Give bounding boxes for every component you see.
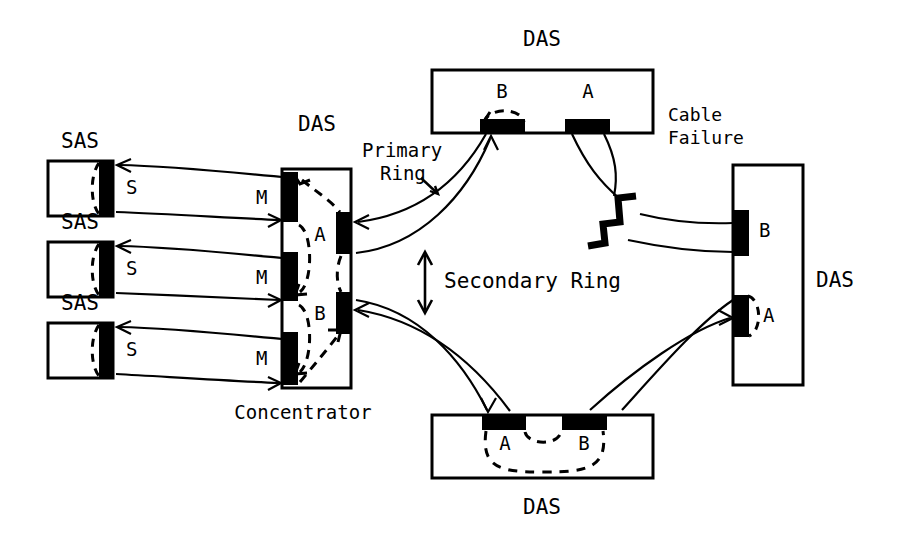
link-topdas-a-to-failure-upper xyxy=(572,134,620,199)
ring-links-bottom xyxy=(355,300,510,412)
concentrator-name-label: Concentrator xyxy=(234,402,371,424)
bottom-das-port-a xyxy=(482,415,526,430)
link-sas3-to-m3 xyxy=(116,374,279,383)
link-failure-to-rightdas-b-upper xyxy=(640,214,733,223)
link-m3-to-sas3 xyxy=(119,327,282,339)
ring-links-right-bottom xyxy=(590,300,733,410)
arrow-topdas-b-in xyxy=(484,136,498,150)
cable-failure-label-line1: Cable xyxy=(668,105,722,126)
right-das-port-b xyxy=(733,210,749,256)
concentrator-port-m1-label: M xyxy=(256,187,267,209)
top-das-label: DAS xyxy=(523,27,561,51)
secondary-ring-label: Secondary Ring xyxy=(444,269,621,293)
sas-2-port-s-label: S xyxy=(126,258,137,280)
top-das-box xyxy=(432,70,653,133)
bottom-das-port-b-label: B xyxy=(578,433,589,455)
bottom-das-port-b xyxy=(562,415,607,430)
link-conc-b-to-botdas-a xyxy=(356,300,487,410)
sas-2-port-s xyxy=(99,242,114,297)
top-das-port-a-label: A xyxy=(582,81,593,103)
sas-3-node xyxy=(48,323,114,378)
sas-3-port-s xyxy=(99,323,114,378)
bottom-das-label: DAS xyxy=(523,495,561,519)
concentrator-node xyxy=(282,169,352,388)
sas-3-label: SAS xyxy=(61,291,99,315)
concentrator-das-label: DAS xyxy=(298,112,336,136)
bottom-das-box xyxy=(432,415,653,478)
link-m1-to-sas1 xyxy=(119,165,282,177)
fddi-network-diagram: DAS DAS DAS DAS Concentrator SAS SAS SAS… xyxy=(0,0,900,543)
concentrator-port-m2-label: M xyxy=(256,267,267,289)
right-das-label: DAS xyxy=(816,268,854,292)
link-botdas-b-to-rightdas-a xyxy=(590,318,730,410)
concentrator-port-m3-label: M xyxy=(256,348,267,370)
cable-failure-zigzag xyxy=(588,196,636,246)
concentrator-port-m3 xyxy=(282,332,298,385)
bottom-das-port-a-label: A xyxy=(499,433,510,455)
sas-1-port-s-label: S xyxy=(126,177,137,199)
right-das-port-b-label: B xyxy=(759,220,770,242)
concentrator-port-a xyxy=(336,212,352,254)
primary-ring-label-line1: Primary xyxy=(362,140,442,162)
link-sas1-to-m1 xyxy=(116,212,279,220)
sas-2-label: SAS xyxy=(61,210,99,234)
concentrator-port-b-label: B xyxy=(314,303,325,325)
top-das-port-b-label: B xyxy=(496,81,507,103)
secondary-ring-double-arrow xyxy=(418,252,432,313)
cable-failure-label-line2: Failure xyxy=(668,128,744,149)
bottom-das-node xyxy=(432,415,653,478)
arrow-rightdas-a-in xyxy=(718,310,733,325)
link-failure-to-rightdas-b-lower xyxy=(628,240,733,252)
ring-links-top-right xyxy=(572,134,733,252)
link-sas2-to-m2 xyxy=(116,293,279,300)
primary-ring-label-line2: Ring xyxy=(380,163,426,185)
link-rightdas-a-to-botdas-b xyxy=(622,300,733,410)
sas-1-node xyxy=(48,161,114,216)
sas-2-node xyxy=(48,242,114,297)
right-das-port-a xyxy=(733,295,749,337)
link-m2-to-sas2 xyxy=(119,246,282,258)
right-das-node xyxy=(733,165,803,385)
sas-1-port-s xyxy=(99,161,114,216)
top-das-node xyxy=(432,70,653,134)
right-das-port-a-label: A xyxy=(763,305,774,327)
top-das-port-b xyxy=(480,119,525,134)
link-botdas-a-to-conc-b xyxy=(358,310,510,411)
concentrator-port-b xyxy=(336,292,352,334)
sas-3-port-s-label: S xyxy=(126,339,137,361)
top-das-port-a xyxy=(565,119,610,134)
cable-failure-icon xyxy=(588,196,636,246)
sas-1-label: SAS xyxy=(61,129,99,153)
right-das-box xyxy=(733,165,803,385)
concentrator-port-a-label: A xyxy=(314,224,325,246)
